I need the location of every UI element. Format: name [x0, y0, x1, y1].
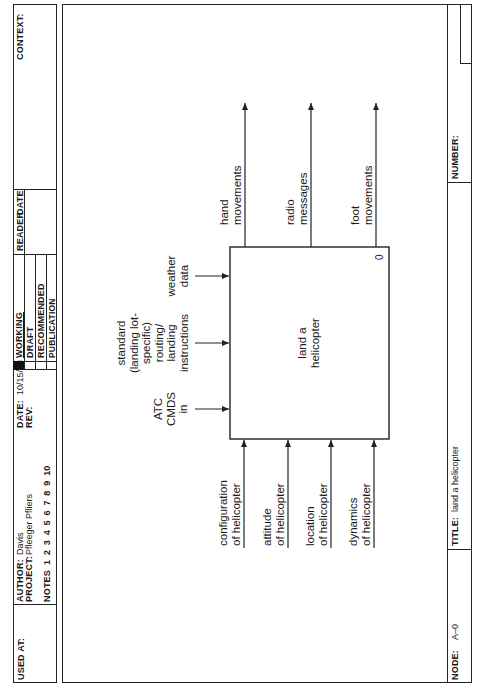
output-label-foot-movements: foot movements	[349, 166, 374, 225]
input-label-configuration: configuration of helicopter	[217, 480, 242, 546]
activity-box-label: land a helicopter	[296, 293, 321, 393]
input-label-attitude: attitude of helicopter	[261, 483, 286, 546]
input-label-dynamics: dynamics of helicopter	[347, 483, 372, 546]
output-label-radio-messages: radio messages	[284, 173, 309, 225]
input-label-location: location of helicopter	[304, 483, 329, 546]
diagram-arrows	[0, 0, 484, 700]
control-label-weather-data: weather data	[165, 246, 190, 306]
idef0-form: USED AT: AUTHOR: Davis PROJECT: Pfleeger…	[0, 0, 484, 700]
output-label-hand-movements: hand movements	[218, 166, 243, 225]
control-label-atc-cmds: ATC CMDS in	[152, 384, 190, 434]
control-label-routing-instructions: standard (landing lot- specific) routing…	[115, 298, 190, 388]
activity-box-number: 0	[374, 254, 387, 260]
